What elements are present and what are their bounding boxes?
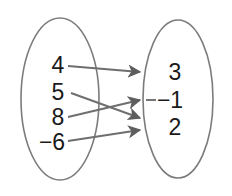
arrow-negative-6-to-2 — [68, 130, 140, 141]
arrow-4-to-3 — [68, 66, 140, 72]
range-element-3: 3 — [169, 59, 182, 85]
range-element-2: 2 — [169, 114, 182, 140]
domain-element-5: 5 — [52, 79, 65, 105]
domain-element-negative-6: −6 — [39, 129, 65, 155]
domain-element-8: 8 — [52, 104, 65, 130]
mapping-diagram: 4 5 8 −6 3 −1 2 — [0, 0, 232, 196]
mapping-diagram-canvas: 4 5 8 −6 3 −1 2 — [0, 0, 232, 196]
domain-element-4: 4 — [52, 52, 65, 78]
range-element-negative-1: −1 — [157, 87, 183, 113]
